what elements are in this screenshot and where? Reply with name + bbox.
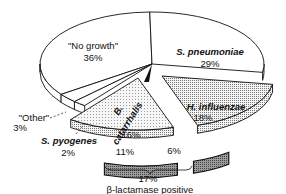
pie-subslice-h-influenzae-bl-positive (193, 152, 228, 173)
pct-other: 3% (13, 122, 27, 133)
label-s-pneumoniae: S. pneumoniae (176, 46, 244, 57)
label-s-pyogenes: S. pyogenes (41, 135, 97, 146)
pie-chart: "No growth"36%S. pneumoniae29%H. influen… (0, 0, 286, 194)
bracket-pct: 17% (138, 173, 158, 184)
bracket-text: β-lactamase positive (107, 184, 194, 194)
leader-other (50, 112, 66, 118)
pct-b-catarrhalis-sub: 11% (116, 146, 135, 157)
pct-h-influenzae: 18% (193, 112, 213, 123)
pct-no-growth: 36% (83, 52, 103, 63)
pct-s-pneumoniae: 29% (200, 58, 220, 69)
pct-b-catarrhalis: 16% (121, 129, 141, 140)
label-no-growth: "No growth" (68, 40, 118, 51)
pct-s-pyogenes: 2% (61, 147, 75, 158)
label-h-influenzae: H. influenzae (187, 101, 246, 112)
pct-h-influenzae-sub: 6% (167, 145, 181, 156)
